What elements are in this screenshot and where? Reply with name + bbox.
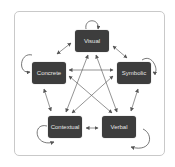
node-symbolic: Symbolic <box>117 62 151 84</box>
node-contextual: Contextual <box>48 116 82 138</box>
edge-visual-verbal <box>96 55 117 112</box>
node-label: Verbal <box>110 124 127 130</box>
node-label: Visual <box>84 38 100 44</box>
node-label: Concrete <box>37 70 61 76</box>
self-loop-concrete <box>22 55 32 72</box>
edge-symbolic-verbal <box>131 89 138 111</box>
edge-visual-concrete <box>57 43 71 54</box>
edge-visual-symbolic <box>113 46 127 58</box>
node-label: Contextual <box>51 124 80 130</box>
node-visual: Visual <box>75 30 109 52</box>
self-loop-visual <box>86 21 98 29</box>
edge-concrete-contextual <box>44 89 51 111</box>
edge-symbolic-contextual <box>72 76 113 113</box>
node-verbal: Verbal <box>102 116 136 138</box>
edge-visual-contextual <box>66 55 88 112</box>
node-concrete: Concrete <box>32 62 66 84</box>
node-label: Symbolic <box>122 70 146 76</box>
